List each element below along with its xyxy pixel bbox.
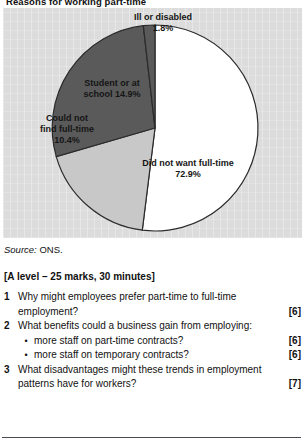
exam-header: [A level – 25 marks, 30 minutes] [4, 271, 155, 282]
question-item-1: 1 Why might employees prefer part-time t… [4, 290, 301, 319]
question-number: 3 [4, 363, 18, 378]
pie-slice-did-not-want-full-time [142, 25, 258, 231]
question-text: What benefits could a business gain from… [18, 319, 277, 334]
question-item-2: 2 What benefits could a business gain fr… [4, 319, 301, 334]
question-marks: [7] [277, 377, 301, 392]
source-value: ONS. [37, 244, 63, 255]
pie-label-ill-or-disabled: Ill or disabled 1.8% [107, 12, 219, 34]
source-line: Source: ONS. [4, 244, 63, 255]
bullet-icon: • [18, 348, 34, 363]
bullet-text: more staff on part-time contracts? [34, 334, 277, 349]
question-number: 1 [4, 290, 18, 305]
pie-label-could-not-find-full-time: Could not find full-time 10.4% [21, 113, 113, 146]
pie-chart-panel: Ill or disabled 1.8% Student or at schoo… [3, 8, 302, 238]
figure-title: Reasons for working part-time [6, 0, 146, 7]
question-2-bullets: • more staff on part-time contracts? [6]… [4, 334, 301, 363]
pie-label-did-not-want-full-time: Did not want full-time 72.9% [123, 158, 253, 180]
question-marks: [6] [277, 305, 301, 320]
bullet-marks: [6] [277, 348, 301, 363]
pie-label-student-or-at-school: Student or at school 14.9% [66, 78, 158, 100]
bullet-text: more staff on temporary contracts? [34, 348, 277, 363]
bullet-item: • more staff on part-time contracts? [6] [18, 334, 301, 349]
source-label: Source: [4, 244, 37, 255]
bullet-item: • more staff on temporary contracts? [6] [18, 348, 301, 363]
question-item-3: 3 What disadvantages might these trends … [4, 363, 301, 392]
question-text: What disadvantages might these trends in… [18, 363, 277, 392]
worksheet-page: Reasons for working part-time Ill or dis… [0, 0, 305, 448]
question-number: 2 [4, 319, 18, 334]
bottom-divider [2, 437, 301, 438]
question-text: Why might employees prefer part-time to … [18, 290, 277, 319]
bullet-icon: • [18, 334, 34, 349]
bullet-marks: [6] [277, 334, 301, 349]
question-list: 1 Why might employees prefer part-time t… [4, 290, 301, 392]
